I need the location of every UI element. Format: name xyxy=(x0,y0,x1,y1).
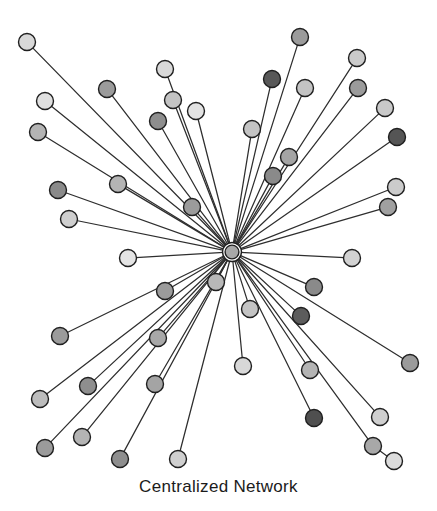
network-node[interactable] xyxy=(52,328,69,345)
network-node[interactable] xyxy=(99,81,116,98)
network-node[interactable] xyxy=(242,301,259,318)
graph-background xyxy=(0,0,437,511)
node-circle[interactable] xyxy=(306,279,323,296)
node-circle[interactable] xyxy=(292,29,309,46)
network-graph xyxy=(0,0,437,511)
network-node[interactable] xyxy=(264,71,281,88)
node-circle[interactable] xyxy=(157,283,174,300)
node-circle[interactable] xyxy=(99,81,116,98)
node-circle[interactable] xyxy=(37,93,54,110)
network-node[interactable] xyxy=(297,80,314,97)
node-circle[interactable] xyxy=(61,211,78,228)
node-circle[interactable] xyxy=(110,176,127,193)
network-node[interactable] xyxy=(293,308,310,325)
node-circle[interactable] xyxy=(170,451,187,468)
node-circle[interactable] xyxy=(52,328,69,345)
figure-caption: Centralized Network xyxy=(0,477,437,497)
network-node[interactable] xyxy=(112,451,129,468)
node-circle[interactable] xyxy=(188,103,205,120)
node-circle[interactable] xyxy=(120,250,137,267)
node-circle[interactable] xyxy=(37,440,54,457)
node-circle[interactable] xyxy=(389,129,406,146)
network-hub-node[interactable] xyxy=(223,243,242,262)
network-node[interactable] xyxy=(147,376,164,393)
node-circle[interactable] xyxy=(306,410,323,427)
node-circle[interactable] xyxy=(349,50,366,67)
network-node[interactable] xyxy=(37,440,54,457)
node-circle[interactable] xyxy=(377,100,394,117)
node-circle[interactable] xyxy=(208,274,225,291)
node-circle[interactable] xyxy=(302,362,319,379)
network-node[interactable] xyxy=(389,129,406,146)
node-circle[interactable] xyxy=(264,71,281,88)
node-circle[interactable] xyxy=(344,250,361,267)
node-circle[interactable] xyxy=(350,80,367,97)
node-circle[interactable] xyxy=(365,438,382,455)
node-circle[interactable] xyxy=(235,358,252,375)
node-circle[interactable] xyxy=(372,409,389,426)
network-node[interactable] xyxy=(349,50,366,67)
network-node[interactable] xyxy=(165,92,182,109)
network-node[interactable] xyxy=(365,438,382,455)
network-node[interactable] xyxy=(120,250,137,267)
network-node[interactable] xyxy=(244,121,261,138)
network-node[interactable] xyxy=(188,103,205,120)
node-circle[interactable] xyxy=(150,113,167,130)
network-node[interactable] xyxy=(157,283,174,300)
node-circle[interactable] xyxy=(32,391,49,408)
node-circle[interactable] xyxy=(184,199,201,216)
node-circle[interactable] xyxy=(293,308,310,325)
network-node[interactable] xyxy=(184,199,201,216)
node-circle[interactable] xyxy=(80,378,97,395)
network-node[interactable] xyxy=(372,409,389,426)
network-node[interactable] xyxy=(30,124,47,141)
node-circle[interactable] xyxy=(388,179,405,196)
network-node[interactable] xyxy=(110,176,127,193)
node-circle[interactable] xyxy=(150,330,167,347)
node-circle[interactable] xyxy=(147,376,164,393)
network-node[interactable] xyxy=(377,100,394,117)
network-node[interactable] xyxy=(74,429,91,446)
node-circle[interactable] xyxy=(265,168,282,185)
network-node[interactable] xyxy=(306,410,323,427)
node-circle[interactable] xyxy=(74,429,91,446)
network-node[interactable] xyxy=(150,113,167,130)
node-circle[interactable] xyxy=(30,124,47,141)
node-circle[interactable] xyxy=(112,451,129,468)
network-node[interactable] xyxy=(402,355,419,372)
network-node[interactable] xyxy=(235,358,252,375)
network-node[interactable] xyxy=(302,362,319,379)
network-node[interactable] xyxy=(50,182,67,199)
network-node[interactable] xyxy=(19,34,36,51)
node-circle[interactable] xyxy=(281,149,298,166)
hub-layer xyxy=(223,243,242,262)
node-circle[interactable] xyxy=(297,80,314,97)
node-circle[interactable] xyxy=(50,182,67,199)
node-circle[interactable] xyxy=(165,92,182,109)
network-node[interactable] xyxy=(32,391,49,408)
network-node[interactable] xyxy=(380,199,397,216)
network-node[interactable] xyxy=(170,451,187,468)
network-node[interactable] xyxy=(37,93,54,110)
node-circle[interactable] xyxy=(380,199,397,216)
hub-circle[interactable] xyxy=(225,245,239,259)
network-node[interactable] xyxy=(157,61,174,78)
network-node[interactable] xyxy=(386,453,403,470)
network-node[interactable] xyxy=(80,378,97,395)
network-node[interactable] xyxy=(150,330,167,347)
network-node[interactable] xyxy=(265,168,282,185)
network-node[interactable] xyxy=(292,29,309,46)
network-node[interactable] xyxy=(281,149,298,166)
network-node[interactable] xyxy=(388,179,405,196)
node-circle[interactable] xyxy=(386,453,403,470)
network-node[interactable] xyxy=(306,279,323,296)
network-node[interactable] xyxy=(344,250,361,267)
node-circle[interactable] xyxy=(402,355,419,372)
network-node[interactable] xyxy=(350,80,367,97)
node-circle[interactable] xyxy=(157,61,174,78)
node-circle[interactable] xyxy=(242,301,259,318)
network-node[interactable] xyxy=(61,211,78,228)
node-circle[interactable] xyxy=(19,34,36,51)
node-circle[interactable] xyxy=(244,121,261,138)
network-node[interactable] xyxy=(208,274,225,291)
